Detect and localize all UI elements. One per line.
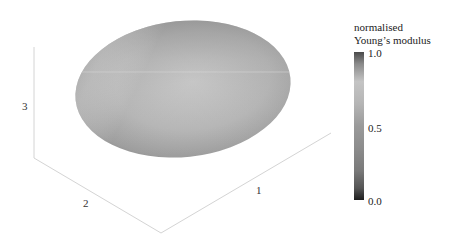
colorbar-title: normalised Young’s modulus	[354, 21, 431, 47]
ellipsoid-surface	[28, 10, 300, 187]
colorbar	[354, 52, 364, 200]
axis-label-2: 2	[83, 197, 89, 209]
colorbar-tick-max: 1.0	[368, 47, 382, 59]
colorbar-tick-mid: 0.5	[368, 122, 382, 134]
axis-label-1: 1	[256, 184, 262, 196]
axis-label-3: 3	[22, 100, 28, 112]
colorbar-tick-min: 0.0	[368, 195, 382, 207]
y-axis-line	[34, 158, 161, 233]
